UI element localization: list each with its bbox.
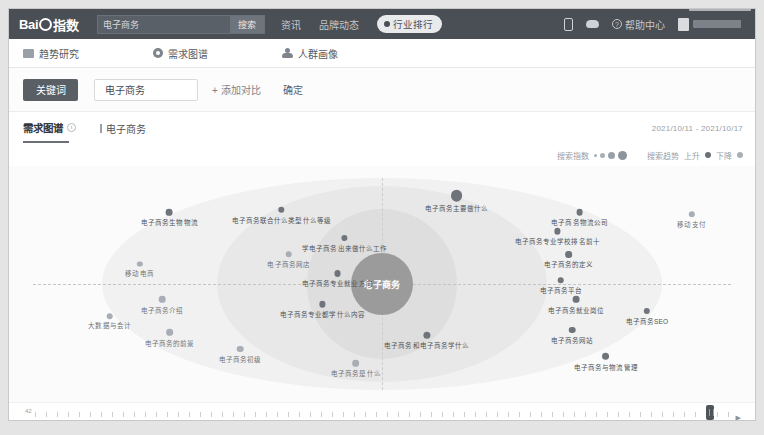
graph-node[interactable]: 电子商务与物流管理 (574, 353, 638, 372)
timeline-tick (46, 412, 47, 417)
graph-node[interactable]: 电子商务网站 (551, 327, 594, 345)
timeline-tick (629, 412, 630, 417)
timeline-tick (145, 412, 146, 417)
nav-search-button[interactable]: 搜索 (230, 16, 264, 33)
timeline-tick (123, 412, 124, 417)
selected-keyword: 电子商务 (100, 121, 146, 136)
graph-node[interactable]: 电子商务生物物流 (141, 209, 198, 227)
timeline-left-label: 42 (25, 408, 32, 414)
cloud-icon[interactable] (586, 20, 599, 28)
keyword-type-button[interactable]: 关键词 (23, 79, 78, 101)
timeline-tick (288, 412, 289, 417)
graph-node[interactable]: 电子商务就业岗位 (548, 296, 605, 314)
timeline-tick (519, 412, 520, 417)
timeline-tick (112, 412, 113, 417)
timeline-month-label: 5月 (571, 419, 582, 421)
graph-icon (153, 48, 163, 58)
graph-node[interactable]: 电子商务联合什么类型什么等级 (232, 206, 331, 224)
graph-node[interactable]: 电子商务是什么 (331, 360, 381, 378)
timeline-tick (695, 412, 696, 417)
graph-node-bubble (689, 212, 695, 218)
graph-node[interactable]: 电子商务主要做什么 (425, 190, 489, 213)
pill-dot-icon (384, 21, 390, 27)
date-range-label[interactable]: 2021/10/11 - 2021/10/17 (652, 124, 743, 133)
graph-node[interactable]: 电子商务初级 (219, 346, 262, 364)
timeline-month-label: 10月 (624, 419, 639, 421)
graph-node-bubble (554, 228, 561, 235)
demand-graph-canvas[interactable]: 电子商务 电子商务生物物流电子商务联合什么类型什么等级电子商务主要做什么电子商务… (9, 166, 755, 402)
sidebar-item-trend-research[interactable]: 趋势研究 (23, 46, 79, 61)
graph-node[interactable]: 电子商务专业都学什么内容 (280, 301, 365, 319)
info-icon[interactable]: i (67, 123, 76, 132)
timeline-tick (79, 412, 80, 417)
graph-node[interactable]: 学电子商务出来做什么工作 (302, 235, 387, 253)
graph-node[interactable]: 电子商务专业学校排名前十 (515, 228, 600, 246)
graph-node[interactable]: 电子商务平台 (540, 278, 583, 296)
nav-link-brand[interactable]: 品牌动态 (319, 17, 359, 32)
timeline-tick (35, 412, 36, 417)
timeline-month-label: 9月 (505, 419, 516, 421)
sidebar-item-audience-profile[interactable]: 人群画像 (282, 46, 338, 61)
graph-node[interactable]: 电子商务和电子商务学什么 (384, 331, 469, 350)
timeline-tick (497, 412, 498, 417)
keyword-input[interactable]: 电子商务 (94, 79, 198, 101)
nav-pill-industry-rank[interactable]: 行业排行 (377, 15, 442, 33)
nav-right-group: ? 帮助中心 (564, 17, 745, 32)
timeline-slider[interactable]: 42 10月11月2021年1月2月3月4月5月6月8月9月10月 ▶ (9, 402, 755, 421)
timeline-month-label: 2021年1月 (212, 419, 247, 421)
timeline-tick (233, 412, 234, 417)
graph-node-bubble (334, 270, 340, 276)
timeline-tick (134, 412, 135, 417)
graph-node-bubble (278, 206, 285, 213)
graph-node-bubble (166, 209, 173, 216)
graph-node[interactable]: 电子商务介绍 (141, 296, 184, 314)
confirm-button[interactable]: 确定 (283, 82, 303, 97)
graph-node-label: 电子商务就业岗位 (548, 304, 605, 314)
graph-node-bubble (341, 235, 347, 241)
timeline-tick (409, 412, 410, 417)
graph-node-label: 电子商务是什么 (331, 368, 381, 378)
graph-node[interactable]: 移动电商 (125, 261, 153, 278)
sidebar-item-demand-graph[interactable]: 需求图谱 (153, 46, 208, 61)
timeline-track[interactable] (35, 412, 729, 413)
panel-title-row: 需求图谱 i 电子商务 2021/10/11 - 2021/10/17 (9, 112, 755, 144)
help-center-link[interactable]: ? 帮助中心 (612, 17, 665, 32)
graph-node-label: 电子商务专业都学什么内容 (280, 309, 365, 319)
graph-node[interactable]: 电子商务网店 (267, 252, 310, 270)
graph-node[interactable]: 电子商务专业就业方向 (302, 270, 373, 288)
graph-node-label: 电子商务专业就业方向 (302, 278, 373, 288)
section-tabs: 趋势研究 需求图谱 人群画像 (9, 39, 755, 68)
timeline-tick (387, 412, 388, 417)
timeline-handle[interactable] (706, 405, 714, 420)
add-compare-button[interactable]: + 添加对比 (212, 82, 261, 97)
mobile-icon[interactable] (564, 18, 573, 31)
graph-node[interactable]: 移动支付 (677, 212, 705, 230)
graph-node-bubble (602, 353, 609, 360)
graph-node-bubble (352, 360, 359, 367)
baidu-index-logo[interactable]: Bai 指数 (19, 15, 79, 34)
timeline-tick (68, 412, 69, 417)
timeline-tick (332, 412, 333, 417)
timeline-next-icon[interactable]: ▶ (736, 414, 741, 421)
chart-legend: 搜索指数 搜索趋势 上升 下降 (9, 144, 755, 166)
graph-node[interactable]: 电子商务SEO (626, 308, 668, 326)
legend-bubble-xs-icon (594, 154, 597, 157)
legend-bubble-m-icon (608, 152, 615, 159)
timeline-tick (607, 412, 608, 417)
page-frame: Bai 指数 搜索 资讯 品牌动态 行业排行 ? 帮助中心 (8, 8, 756, 421)
timeline-month-label: 11月 (128, 419, 143, 421)
graph-node[interactable]: 电子商务物流公司 (551, 209, 608, 227)
graph-node[interactable]: 大数据与会计 (88, 313, 131, 331)
legend-bubble-s-icon (600, 153, 605, 158)
legend-search-trend: 搜索趋势 上升 下降 (647, 150, 743, 161)
graph-node[interactable]: 电子商务的定义 (544, 251, 594, 269)
user-menu[interactable] (678, 18, 741, 31)
nav-search-box[interactable]: 搜索 (97, 15, 265, 34)
timeline-tick (464, 412, 465, 417)
graph-node-label: 电子商务生物物流 (141, 217, 198, 227)
graph-node[interactable]: 电子商务的前景 (145, 329, 195, 347)
nav-search-input[interactable] (98, 19, 230, 29)
nav-link-news[interactable]: 资讯 (281, 17, 301, 32)
graph-node-label: 电子商务联合什么类型什么等级 (232, 215, 331, 225)
graph-node-bubble (569, 327, 575, 333)
